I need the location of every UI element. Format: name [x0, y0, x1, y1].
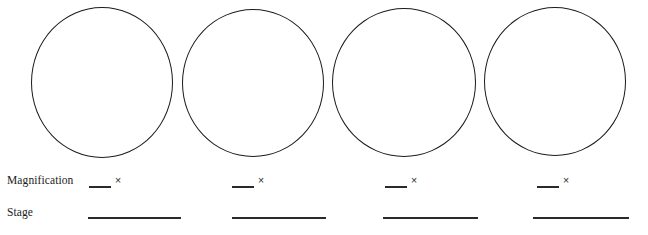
times-symbol-4: ×: [563, 175, 569, 186]
times-symbol-3: ×: [411, 175, 417, 186]
field-of-view-circle-row: [0, 0, 648, 165]
microscope-observation-worksheet: Magnification Stage × × × ×: [0, 0, 648, 235]
field-of-view-circle-3[interactable]: [332, 8, 476, 157]
times-symbol-2: ×: [258, 175, 264, 186]
stage-blank-3[interactable]: [383, 217, 478, 219]
magnification-blank-2[interactable]: [232, 186, 254, 188]
field-of-view-circle-4[interactable]: [484, 7, 626, 156]
magnification-row-label: Magnification: [7, 174, 73, 186]
field-of-view-circle-1[interactable]: [31, 7, 173, 158]
magnification-blank-1[interactable]: [89, 186, 111, 188]
stage-blank-1[interactable]: [88, 217, 181, 219]
stage-blank-4[interactable]: [533, 217, 629, 219]
stage-blank-2[interactable]: [232, 217, 326, 219]
stage-row-label: Stage: [7, 206, 33, 218]
magnification-blank-4[interactable]: [537, 186, 559, 188]
magnification-blank-3[interactable]: [385, 186, 407, 188]
field-of-view-circle-2[interactable]: [182, 9, 324, 157]
times-symbol-1: ×: [115, 175, 121, 186]
